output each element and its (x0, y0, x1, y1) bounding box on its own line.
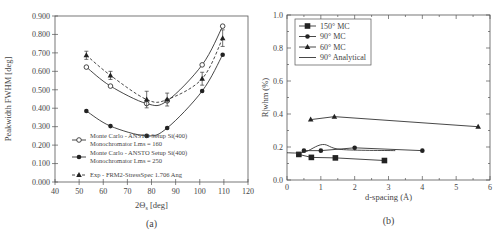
x-axis-label: d-spacing (Å) (365, 192, 412, 202)
y-tick-label: 1.0 (273, 11, 283, 20)
legend-text: 60° MC (320, 43, 346, 52)
x-tick-label: 3 (387, 183, 391, 192)
filled-circle-marker (352, 146, 357, 151)
y-tick-label: 0.4 (273, 110, 283, 119)
panel-label-b: (b) (383, 215, 395, 227)
figure: 0.0000.1000.2000.3000.4000.5000.6000.700… (0, 0, 504, 237)
filled-triangle-marker (332, 114, 338, 119)
filled-square-marker (382, 158, 388, 164)
chart-b-legend: 150° MC90° MC60° MC90° Analytical (295, 19, 371, 65)
filled-square-marker (309, 155, 315, 161)
filled-square-marker (333, 155, 339, 161)
x-tick-label: 4 (420, 183, 424, 192)
y-tick-label: 0.2 (273, 143, 283, 152)
y-tick-label: 0.8 (273, 44, 283, 53)
filled-circle-marker (319, 148, 324, 153)
x-tick-label: 1 (319, 183, 323, 192)
legend-text: 90° Analytical (320, 53, 367, 62)
series-2 (308, 114, 481, 129)
y-tick-label: 0.0 (273, 176, 283, 185)
legend-text: 90° MC (320, 32, 346, 41)
series-0 (296, 152, 387, 164)
y-tick-label: 0.6 (273, 77, 283, 86)
filled-circle-marker (420, 148, 425, 153)
chart-b-rfwhm-vs-d-spacing: 0.00.20.40.60.81.00123456d-spacing (Å)R|… (0, 0, 504, 237)
legend-filled-circle-marker (305, 34, 310, 39)
x-tick-label: 0 (285, 183, 289, 192)
y-axis-label: R|whm (%) (260, 78, 270, 117)
series-1 (302, 146, 425, 153)
x-tick-label: 6 (488, 183, 492, 192)
x-tick-label: 5 (454, 183, 458, 192)
legend-filled-square-marker (305, 23, 311, 29)
legend-text: 150° MC (320, 22, 350, 31)
x-tick-label: 2 (353, 183, 357, 192)
